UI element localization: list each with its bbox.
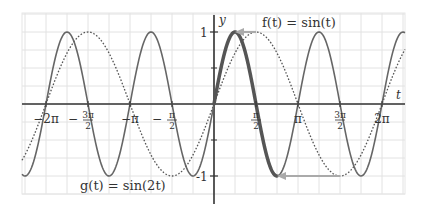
x-tick-denominator: 2 (169, 121, 175, 131)
x-tick-minus: − (68, 112, 78, 126)
y-axis-label: y (218, 13, 226, 27)
x-tick-label: 2π (374, 112, 390, 126)
f-legend-label: f(t) = sin(t) (262, 15, 336, 30)
shift-arrow (277, 172, 340, 180)
x-tick-denominator: 2 (85, 121, 91, 131)
x-tick-numerator: π (169, 110, 175, 120)
x-tick-label: π (294, 112, 302, 126)
x-axis-label: t (396, 88, 401, 102)
y-tick-neg-1: -1 (196, 170, 208, 184)
x-tick-label: −2π (33, 112, 59, 126)
x-tick-denominator: 2 (253, 121, 259, 131)
x-tick-numerator: π (253, 110, 259, 120)
chart: −2π−3π2−π−π2π2π3π22π y t 1 -1 f(t) = sin… (0, 0, 425, 207)
x-tick-label: −π (121, 112, 139, 126)
x-tick-numerator: 3π (334, 110, 346, 120)
x-tick-minus: − (152, 112, 162, 126)
x-tick-numerator: 3π (82, 110, 94, 120)
x-tick-denominator: 2 (337, 121, 343, 131)
y-tick-1: 1 (200, 26, 208, 40)
g-legend-label: g(t) = sin(2t) (80, 178, 166, 193)
